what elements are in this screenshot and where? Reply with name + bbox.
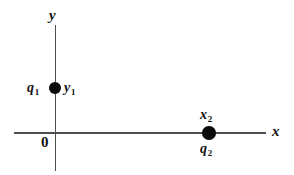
x-axis-label: x: [272, 124, 280, 139]
charge-2-point-marker: [202, 126, 216, 140]
charge-1-coordinate-label: y1: [64, 81, 75, 95]
charge-1-point-marker: [49, 82, 61, 94]
charge-2-label: q2: [200, 142, 212, 156]
charge-1-label: q1: [27, 81, 39, 95]
coordinate-axes-figure: y x 0 q1 y1 x2 q2: [0, 0, 294, 175]
x-axis-line: [14, 132, 266, 134]
origin-label: 0: [41, 135, 49, 150]
y-axis-line: [55, 25, 57, 171]
charge-2-coordinate-label: x2: [200, 108, 212, 122]
y-axis-label: y: [49, 8, 56, 23]
